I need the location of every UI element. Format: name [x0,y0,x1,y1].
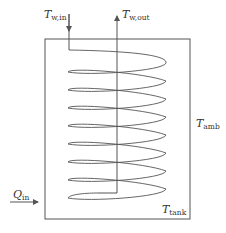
label-ambient: Tamb [196,117,220,131]
label-water-inlet: Tw,in [44,8,67,22]
label-tank: Ttank [162,203,187,217]
label-water-outlet: Tw,out [122,8,150,22]
tank-coil-diagram: Tw,in Tw,out Tamb Ttank Qin [0,0,226,233]
label-heat-input: Qin [13,188,29,202]
